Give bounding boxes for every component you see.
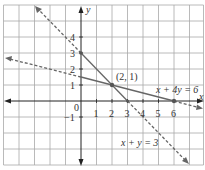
x-tick-5: 5 [156, 108, 161, 119]
intersection-point [110, 83, 114, 87]
coordinate-graph: y x 0 1 2 3 4 5 6 4 3 2 1 −1 (2, 1) x + … [0, 0, 205, 170]
arrowhead-icon [196, 105, 203, 111]
x-tick-6: 6 [171, 108, 176, 119]
line-x-plus-4y-eq-6 [10, 59, 197, 107]
arrowhead-icon [5, 56, 12, 62]
point-0-3 [79, 51, 83, 55]
y-tick-1: 1 [70, 80, 75, 91]
x-tick-3: 3 [125, 108, 130, 119]
y-tick-neg1: −1 [64, 112, 75, 123]
x-tick-1: 1 [94, 108, 99, 119]
intersection-label: (2, 1) [116, 71, 138, 83]
point-3-0 [126, 100, 129, 103]
point-6-0 [172, 99, 176, 103]
x-tick-2: 2 [109, 108, 114, 119]
y-axis [79, 6, 84, 166]
y-axis-label: y [85, 4, 91, 15]
origin-label: 0 [74, 102, 79, 113]
y-tick-4: 4 [70, 32, 75, 43]
arrowhead-icon [182, 157, 189, 164]
line2-label: x + y = 3 [120, 137, 158, 148]
y-tick-3: 3 [70, 48, 75, 59]
y-tick-2: 2 [70, 64, 75, 75]
x-axis-label: x [198, 91, 204, 102]
x-tick-4: 4 [140, 108, 145, 119]
line1-label: x + 4y = 6 [155, 84, 198, 95]
